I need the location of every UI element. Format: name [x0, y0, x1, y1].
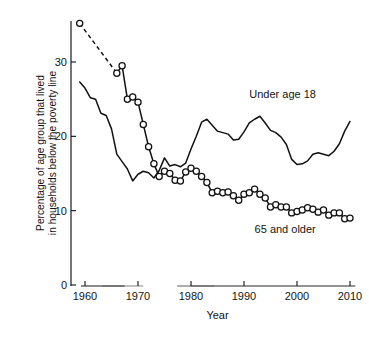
data-point-marker: [283, 204, 289, 210]
data-point-marker: [262, 195, 268, 201]
axes: 0102030196019701980199020002010: [55, 21, 362, 302]
x-tick-label: 1980: [179, 290, 203, 302]
data-point-marker: [204, 179, 210, 185]
data-point-marker: [114, 70, 120, 76]
data-point-marker: [236, 197, 242, 203]
data-point-marker: [146, 144, 152, 150]
data-point-marker: [177, 178, 183, 184]
data-point-marker: [199, 173, 205, 179]
data-point-marker: [77, 20, 83, 26]
poverty-rate-chart-figure: 0102030196019701980199020002010 Under ag…: [0, 0, 369, 344]
x-tick-label: 2000: [285, 290, 309, 302]
data-point-marker: [193, 168, 199, 174]
x-axis-title: Year: [206, 309, 229, 321]
x-tick-label: 1990: [232, 290, 256, 302]
y-tick-label: 30: [55, 56, 67, 68]
data-point-marker: [320, 207, 326, 213]
series-layer: [77, 20, 354, 222]
data-point-marker: [119, 63, 125, 69]
data-point-marker: [167, 170, 173, 176]
caption-fragment: [0, 335, 369, 344]
data-point-marker: [140, 121, 146, 127]
y-axis-title-line-1: Percentage of age group that lived: [35, 75, 46, 231]
y-axis-title-line-2: in households below the poverty line: [47, 71, 58, 236]
x-tick-label: 1960: [73, 290, 97, 302]
y-tick-label: 0: [61, 279, 67, 291]
data-point-marker: [151, 161, 157, 167]
series-older-65: [77, 20, 354, 222]
data-point-marker: [135, 99, 141, 105]
data-point-marker: [230, 193, 236, 199]
x-tick-label: 1970: [126, 290, 150, 302]
data-point-marker: [336, 210, 342, 216]
data-point-marker: [347, 215, 353, 221]
data-point-marker: [130, 94, 136, 100]
series-gap-dashed-segment: [80, 23, 117, 73]
x-tick-label: 2010: [338, 290, 362, 302]
chart-canvas: 0102030196019701980199020002010 Under ag…: [0, 0, 369, 344]
annotation-65-and-older: 65 and older: [255, 223, 316, 235]
annotation-under-age-18: Under age 18: [249, 88, 316, 100]
data-point-marker: [252, 186, 258, 192]
